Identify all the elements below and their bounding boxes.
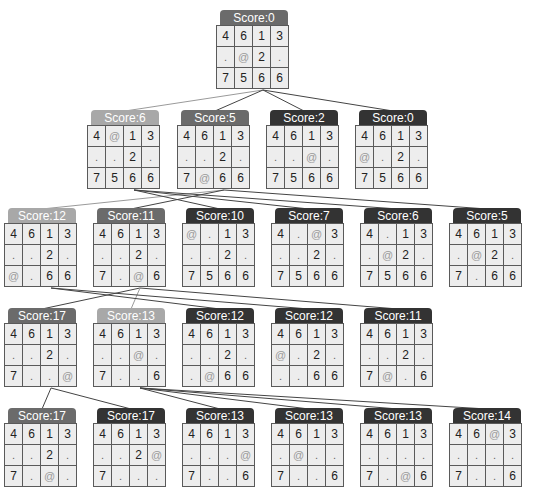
board-row: 4613: [361, 324, 433, 345]
empty-cell: .: [321, 147, 339, 168]
tree-edge: [51, 388, 131, 409]
empty-cell: .: [23, 445, 41, 466]
game-board: 4613@.2.7566: [355, 125, 428, 189]
value-cell: 6: [374, 126, 392, 147]
score-badge: Score:0: [359, 110, 427, 126]
board-row: 7566: [267, 168, 339, 189]
value-cell: 5: [379, 266, 397, 287]
empty-cell: .: [94, 445, 112, 466]
board-row: ..2.: [183, 345, 255, 366]
agent-cell: @: [235, 47, 253, 68]
empty-cell: .: [361, 245, 379, 266]
empty-cell: .: [290, 245, 308, 266]
board-row: .@2.: [217, 47, 289, 68]
agent-cell: @: [130, 266, 148, 287]
board-row: @.2.: [272, 345, 344, 366]
value-cell: 6: [237, 466, 255, 487]
empty-cell: .: [361, 445, 379, 466]
board-row: 4613: [361, 424, 433, 445]
empty-cell: .: [415, 445, 433, 466]
empty-cell: .: [23, 345, 41, 366]
value-cell: 6: [237, 266, 255, 287]
board-row: ..66: [272, 366, 344, 387]
empty-cell: .: [379, 445, 397, 466]
board-row: 7..6: [450, 466, 522, 487]
value-cell: 5: [235, 68, 253, 89]
empty-cell: .: [410, 147, 428, 168]
agent-cell: @: [148, 445, 166, 466]
empty-cell: .: [112, 366, 130, 387]
value-cell: 6: [148, 266, 166, 287]
value-cell: 2: [41, 245, 59, 266]
value-cell: 2: [308, 345, 326, 366]
value-cell: 1: [308, 424, 326, 445]
board-row: 7@.6: [361, 366, 433, 387]
agent-cell: @: [106, 126, 124, 147]
value-cell: 4: [94, 324, 112, 345]
empty-cell: .: [379, 466, 397, 487]
value-cell: 7: [361, 366, 379, 387]
board-row: 7566: [183, 266, 255, 287]
board-row: 7...: [94, 466, 166, 487]
empty-cell: .: [148, 245, 166, 266]
value-cell: 6: [321, 168, 339, 189]
empty-cell: .: [450, 445, 468, 466]
board-row: ..2.: [5, 345, 77, 366]
board-row: 7566: [272, 266, 344, 287]
board-row: 7.@6: [361, 466, 433, 487]
value-cell: 3: [415, 324, 433, 345]
value-cell: 3: [415, 424, 433, 445]
value-cell: 4: [361, 224, 379, 245]
value-cell: 4: [217, 26, 235, 47]
value-cell: 3: [237, 324, 255, 345]
board-row: ..2.: [5, 245, 77, 266]
agent-cell: @: [59, 366, 77, 387]
value-cell: 1: [41, 424, 59, 445]
empty-cell: .: [59, 345, 77, 366]
empty-cell: .: [237, 245, 255, 266]
value-cell: 4: [178, 126, 196, 147]
value-cell: 1: [219, 324, 237, 345]
board-row: 7..6: [94, 366, 166, 387]
agent-cell: @: [41, 466, 59, 487]
game-board: 4613..2.7@.6: [360, 323, 433, 387]
tree-edge: [140, 388, 487, 409]
board-row: .@..: [272, 445, 344, 466]
empty-cell: .: [112, 445, 130, 466]
value-cell: 5: [201, 266, 219, 287]
value-cell: 7: [361, 466, 379, 487]
value-cell: 1: [397, 224, 415, 245]
game-board: 4613..2@7...: [93, 423, 166, 487]
empty-cell: .: [183, 366, 201, 387]
game-board: 4613..2.7.@6: [93, 223, 166, 287]
value-cell: 6: [290, 324, 308, 345]
game-board: 4613...@7..6: [182, 423, 255, 487]
value-cell: 6: [468, 224, 486, 245]
agent-cell: @: [5, 266, 23, 287]
value-cell: 6: [23, 224, 41, 245]
empty-cell: .: [130, 466, 148, 487]
value-cell: 3: [237, 224, 255, 245]
value-cell: 7: [272, 466, 290, 487]
board-row: .@2.: [361, 245, 433, 266]
agent-cell: @: [397, 466, 415, 487]
board-row: 4613: [5, 424, 77, 445]
value-cell: 1: [214, 126, 232, 147]
board-row: 7.66: [450, 266, 522, 287]
board-row: ..2@: [94, 445, 166, 466]
tree-edge: [134, 190, 309, 209]
value-cell: 6: [235, 26, 253, 47]
empty-cell: .: [374, 147, 392, 168]
value-cell: 6: [415, 466, 433, 487]
value-cell: 6: [112, 324, 130, 345]
value-cell: 6: [285, 126, 303, 147]
agent-cell: @: [201, 366, 219, 387]
empty-cell: .: [415, 345, 433, 366]
value-cell: 7: [183, 466, 201, 487]
value-cell: 7: [361, 266, 379, 287]
value-cell: 3: [232, 126, 250, 147]
empty-cell: .: [326, 245, 344, 266]
empty-cell: .: [196, 147, 214, 168]
value-cell: 7: [356, 168, 374, 189]
value-cell: 6: [232, 168, 250, 189]
